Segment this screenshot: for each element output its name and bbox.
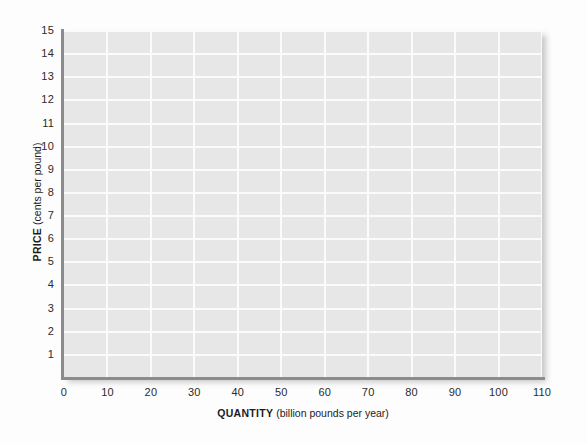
x-axis-line [61,377,545,380]
gridline-horizontal [64,31,542,32]
y-axis-title-name: PRICE [31,228,43,262]
gridline-horizontal [64,238,542,240]
x-tick-label: 110 [522,386,562,398]
gridline-vertical [411,31,413,378]
x-axis-title-name: QUANTITY [217,407,273,419]
x-tick-label: 100 [479,386,519,398]
gridline-horizontal [64,146,542,148]
gridline-horizontal [64,53,542,55]
y-tick-label: 15 [28,24,54,36]
gridline-horizontal [64,331,542,333]
gridline-vertical [150,31,152,378]
gridline-horizontal [64,354,542,356]
x-tick-label: 30 [174,386,214,398]
y-axis-line [61,29,64,380]
x-axis-title: QUANTITY (billion pounds per year) [64,407,542,419]
gridline-horizontal [64,261,542,263]
gridline-vertical [498,31,500,378]
x-tick-label: 50 [261,386,301,398]
gridline-vertical [367,31,369,378]
gridline-horizontal [64,284,542,286]
x-tick-label: 20 [131,386,171,398]
gridline-horizontal [64,215,542,217]
gridline-vertical [454,31,456,378]
x-tick-label: 70 [348,386,388,398]
y-axis-title: PRICE (cents per pound) [31,102,43,302]
gridline-horizontal [64,123,542,125]
x-tick-label: 60 [305,386,345,398]
y-tick-label: 13 [28,70,54,82]
y-tick-label: 14 [28,47,54,59]
gridline-vertical [106,31,108,378]
x-tick-label: 10 [87,386,127,398]
gridline-horizontal [64,192,542,194]
gridline-vertical [237,31,239,378]
x-tick-label: 40 [218,386,258,398]
gridline-horizontal [64,99,542,101]
gridline-vertical [541,31,542,378]
x-tick-label: 0 [44,386,84,398]
y-tick-label: 2 [28,325,54,337]
gridline-vertical [324,31,326,378]
gridline-vertical [280,31,282,378]
gridline-vertical [193,31,195,378]
chart-figure: 0102030405060708090100110 12345678910111… [0,0,587,443]
gridline-horizontal [64,76,542,78]
grid-lines [64,31,542,378]
y-axis-title-unit: (cents per pound) [31,143,43,225]
y-tick-label: 1 [28,348,54,360]
x-tick-label: 90 [435,386,475,398]
x-axis-title-unit: (billion pounds per year) [276,407,389,419]
x-tick-label: 80 [392,386,432,398]
gridline-horizontal [64,308,542,310]
plot-area [64,31,542,378]
y-tick-label: 3 [28,302,54,314]
gridline-horizontal [64,169,542,171]
